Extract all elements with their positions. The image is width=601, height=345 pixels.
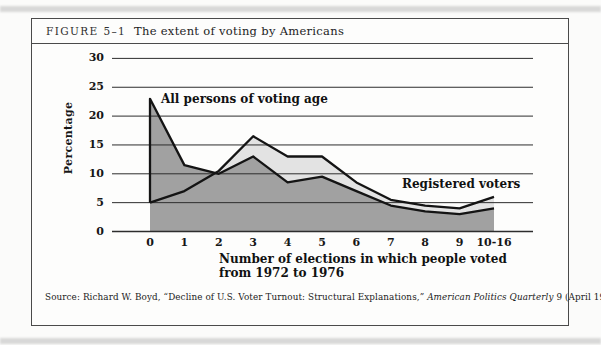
y-tick-label: 30: [70, 51, 104, 65]
y-tick-label: 10: [70, 167, 104, 181]
y-tick-label: 15: [70, 138, 104, 152]
annotation-registered: Registered voters: [402, 177, 520, 191]
source-note: Source: Richard W. Boyd, “Decline of U.S…: [45, 292, 601, 302]
y-tick-label: 5: [70, 196, 104, 210]
source-text-suffix: 9 (April 1981), p. 148.: [554, 292, 601, 302]
source-text-prefix: Source: Richard W. Boyd, “Decline of U.S…: [45, 292, 427, 302]
x-axis-title-line2: from 1972 to 1976: [219, 267, 507, 281]
x-axis-title: Number of elections in which people vote…: [219, 253, 507, 280]
annotation-all-persons: All persons of voting age: [161, 92, 328, 106]
x-axis-title-line1: Number of elections in which people vote…: [219, 253, 507, 267]
y-tick-label: 20: [70, 109, 104, 123]
source-text-journal: American Politics Quarterly: [427, 292, 553, 302]
y-tick-label: 0: [70, 225, 104, 239]
x-tick-label: 10-16: [472, 236, 516, 250]
y-tick-label: 25: [70, 80, 104, 94]
page-root: FIGURE 5–1 The extent of voting by Ameri…: [0, 0, 601, 345]
